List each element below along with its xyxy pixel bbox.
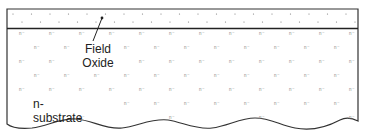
field-oxide-label: Field Oxide xyxy=(76,42,120,70)
oxide-dot xyxy=(12,13,13,14)
n-minus-doping-marker: n⁻ xyxy=(259,31,265,36)
oxide-dot xyxy=(206,21,207,22)
n-minus-doping-marker: n⁻ xyxy=(124,45,130,50)
oxide-dot xyxy=(327,13,328,14)
field-oxide-label-line2: Oxide xyxy=(76,56,120,70)
n-minus-doping-marker: n⁻ xyxy=(64,73,70,78)
oxide-dot xyxy=(308,13,309,14)
n-minus-doping-marker: n⁻ xyxy=(34,73,40,78)
oxide-dot xyxy=(345,13,346,14)
n-minus-doping-marker: n⁻ xyxy=(289,87,295,92)
n-minus-doping-marker: n⁻ xyxy=(319,31,325,36)
substrate-label: n-substrate xyxy=(33,97,93,125)
n-minus-doping-marker: n⁻ xyxy=(259,115,265,120)
oxide-dot xyxy=(58,21,59,22)
n-minus-doping-marker: n⁻ xyxy=(64,45,70,50)
n-minus-doping-marker: n⁻ xyxy=(124,101,130,106)
oxide-dot xyxy=(31,13,32,14)
oxide-dot xyxy=(160,13,161,14)
n-minus-doping-marker: n⁻ xyxy=(109,31,115,36)
n-minus-doping-marker: n⁻ xyxy=(274,45,280,50)
n-minus-doping-marker: n⁻ xyxy=(289,31,295,36)
n-minus-doping-marker: n⁻ xyxy=(139,59,145,64)
n-minus-doping-marker: n⁻ xyxy=(199,59,205,64)
n-minus-doping-marker: n⁻ xyxy=(49,31,55,36)
oxide-dot xyxy=(123,13,124,14)
oxide-dot xyxy=(197,13,198,14)
oxide-dot xyxy=(142,13,143,14)
oxide-dot xyxy=(49,13,50,14)
n-minus-doping-marker: n⁻ xyxy=(214,45,220,50)
n-minus-doping-marker: n⁻ xyxy=(274,101,280,106)
oxide-dot xyxy=(86,13,87,14)
oxide-dot xyxy=(188,21,189,22)
n-minus-doping-marker: n⁻ xyxy=(274,73,280,78)
n-minus-doping-marker: n⁻ xyxy=(184,73,190,78)
oxide-dot xyxy=(225,21,226,22)
n-minus-doping-marker: n⁻ xyxy=(229,87,235,92)
oxide-dot xyxy=(169,21,170,22)
n-minus-doping-marker: n⁻ xyxy=(319,59,325,64)
oxide-dot xyxy=(21,21,22,22)
oxide-dot xyxy=(151,21,152,22)
n-minus-doping-marker: n⁻ xyxy=(304,101,310,106)
n-minus-doping-marker: n⁻ xyxy=(244,45,250,50)
n-minus-doping-marker: n⁻ xyxy=(349,59,355,64)
n-minus-doping-marker: n⁻ xyxy=(139,31,145,36)
oxide-dot xyxy=(262,21,263,22)
oxide-dot xyxy=(95,21,96,22)
n-minus-doping-marker: n⁻ xyxy=(244,101,250,106)
n-minus-doping-marker: n⁻ xyxy=(334,73,340,78)
n-minus-doping-marker: n⁻ xyxy=(124,73,130,78)
oxide-dot xyxy=(216,13,217,14)
oxide-dot xyxy=(271,13,272,14)
oxide-dot xyxy=(317,21,318,22)
n-minus-doping-marker: n⁻ xyxy=(109,87,115,92)
n-minus-doping-marker: n⁻ xyxy=(244,73,250,78)
n-minus-doping-marker: n⁻ xyxy=(349,115,355,120)
n-minus-doping-marker: n⁻ xyxy=(349,87,355,92)
n-minus-doping-marker: n⁻ xyxy=(139,87,145,92)
n-minus-doping-marker: n⁻ xyxy=(79,31,85,36)
oxide-dot xyxy=(243,21,244,22)
n-minus-doping-marker: n⁻ xyxy=(154,73,160,78)
oxide-dot xyxy=(299,21,300,22)
oxide-dot xyxy=(290,13,291,14)
n-minus-doping-marker: n⁻ xyxy=(19,59,25,64)
oxide-dot xyxy=(68,13,69,14)
n-minus-doping-marker: n⁻ xyxy=(19,31,25,36)
n-minus-doping-marker: n⁻ xyxy=(259,59,265,64)
oxide-dot xyxy=(114,21,115,22)
n-minus-doping-marker: n⁻ xyxy=(199,31,205,36)
n-minus-doping-marker: n⁻ xyxy=(229,59,235,64)
n-minus-doping-marker: n⁻ xyxy=(49,87,55,92)
n-minus-doping-marker: n⁻ xyxy=(94,73,100,78)
n-minus-doping-marker: n⁻ xyxy=(214,73,220,78)
n-minus-doping-marker: n⁻ xyxy=(34,45,40,50)
n-minus-doping-marker: n⁻ xyxy=(154,45,160,50)
n-minus-doping-marker: n⁻ xyxy=(259,87,265,92)
oxide-dot xyxy=(40,21,41,22)
n-minus-doping-marker: n⁻ xyxy=(169,115,175,120)
n-minus-doping-marker: n⁻ xyxy=(49,59,55,64)
n-minus-doping-marker: n⁻ xyxy=(184,101,190,106)
n-minus-doping-marker: n⁻ xyxy=(199,87,205,92)
n-minus-doping-marker: n⁻ xyxy=(334,101,340,106)
n-minus-doping-marker: n⁻ xyxy=(184,45,190,50)
n-minus-doping-marker: n⁻ xyxy=(169,87,175,92)
n-minus-doping-marker: n⁻ xyxy=(79,87,85,92)
oxide-dot xyxy=(336,21,337,22)
n-minus-doping-marker: n⁻ xyxy=(304,73,310,78)
oxide-dot xyxy=(354,21,355,22)
n-minus-doping-marker: n⁻ xyxy=(304,45,310,50)
n-minus-doping-marker: n⁻ xyxy=(349,31,355,36)
n-minus-doping-marker: n⁻ xyxy=(319,87,325,92)
n-minus-doping-marker: n⁻ xyxy=(229,31,235,36)
oxide-dot xyxy=(132,21,133,22)
oxide-dot xyxy=(234,13,235,14)
n-minus-doping-marker: n⁻ xyxy=(214,101,220,106)
field-oxide-label-line1: Field xyxy=(76,42,120,56)
field-oxide-leader-dot xyxy=(101,17,104,20)
n-minus-doping-marker: n⁻ xyxy=(19,87,25,92)
oxide-dot xyxy=(179,13,180,14)
